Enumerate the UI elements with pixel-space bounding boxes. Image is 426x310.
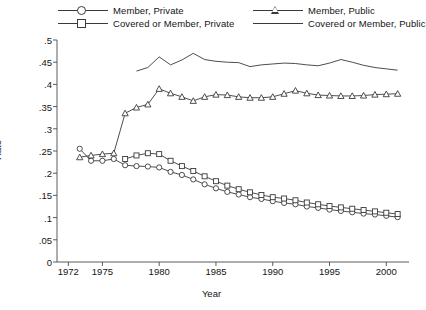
chart-canvas: [57, 40, 409, 262]
data-point: [191, 168, 196, 173]
data-point: [122, 110, 128, 116]
chart-legend: Member, Private Member, Public Covered o…: [58, 4, 408, 30]
data-point: [338, 205, 343, 210]
legend-key-circle-icon: [58, 5, 108, 16]
y-tick-label: .2: [44, 168, 52, 179]
data-point: [213, 179, 218, 184]
data-point: [236, 192, 241, 197]
legend-item-covered-member-public: Covered or Member, Public: [253, 17, 426, 29]
data-point: [202, 182, 207, 187]
data-point: [384, 210, 389, 215]
y-tick-label: .45: [39, 57, 52, 68]
data-point: [145, 151, 150, 156]
data-point: [167, 90, 173, 96]
data-point: [88, 158, 93, 163]
legend-key-plain-line-icon: [253, 18, 303, 29]
data-point: [111, 156, 116, 161]
data-point: [134, 153, 139, 158]
series-1: [123, 151, 401, 217]
data-point: [202, 174, 207, 179]
legend-label: Covered or Member, Private: [113, 18, 234, 29]
data-point: [123, 163, 128, 168]
x-axis-tick-labels: 1972197519801985199019952000: [0, 266, 423, 280]
legend-key-square-icon: [58, 18, 108, 29]
data-point: [327, 204, 332, 209]
data-point: [372, 209, 377, 214]
data-point: [157, 152, 162, 157]
y-tick-label: .4: [44, 79, 52, 90]
data-point: [259, 192, 264, 197]
y-tick-label: .5: [44, 35, 52, 46]
series-2: [77, 86, 401, 160]
y-axis-tick-labels: 0.05.1.15.2.25.3.35.4.45.5: [0, 40, 52, 262]
data-point: [156, 86, 162, 92]
data-point: [123, 156, 128, 161]
y-tick-label: .05: [39, 234, 52, 245]
x-tick-label: 1972: [58, 266, 79, 277]
data-point: [145, 164, 150, 169]
data-point: [282, 196, 287, 201]
x-tick-label: 2000: [376, 266, 397, 277]
x-axis-title: Year: [0, 288, 423, 299]
data-point: [168, 169, 173, 174]
plot-area: [57, 40, 409, 262]
data-point: [179, 164, 184, 169]
data-point: [248, 190, 253, 195]
series-3: [136, 53, 397, 71]
data-point: [247, 195, 252, 200]
legend-item-member-public: Member, Public: [253, 4, 375, 16]
data-point: [225, 189, 230, 194]
data-point: [316, 202, 321, 207]
data-point: [77, 146, 82, 151]
y-tick-label: .1: [44, 212, 52, 223]
data-point: [190, 98, 196, 104]
legend-item-member-private: Member, Private: [58, 4, 184, 16]
data-point: [225, 183, 230, 188]
data-point: [134, 164, 139, 169]
data-point: [270, 195, 275, 200]
data-point: [395, 212, 400, 217]
x-tick-label: 1990: [262, 266, 283, 277]
y-tick-label: .3: [44, 123, 52, 134]
data-point: [236, 187, 241, 192]
x-tick-label: 1995: [319, 266, 340, 277]
x-tick-label: 1975: [92, 266, 113, 277]
data-point: [179, 172, 184, 177]
legend-key-triangle-icon: [253, 5, 303, 16]
data-point: [293, 198, 298, 203]
legend-label: Covered or Member, Public: [308, 18, 426, 29]
data-point: [361, 208, 366, 213]
data-point: [292, 88, 298, 94]
x-tick-label: 1985: [205, 266, 226, 277]
y-tick-label: .25: [39, 146, 52, 157]
legend-label: Member, Public: [308, 5, 375, 16]
data-point: [304, 200, 309, 205]
data-point: [191, 177, 196, 182]
y-tick-label: .35: [39, 101, 52, 112]
y-axis-title: Rate: [0, 140, 3, 160]
data-point: [350, 206, 355, 211]
x-tick-label: 1980: [149, 266, 170, 277]
legend-label: Member, Private: [113, 5, 184, 16]
legend-item-covered-member-private: Covered or Member, Private: [58, 17, 234, 29]
data-point: [100, 158, 105, 163]
data-point: [168, 158, 173, 163]
data-point: [157, 165, 162, 170]
y-tick-label: .15: [39, 190, 52, 201]
data-point: [213, 186, 218, 191]
